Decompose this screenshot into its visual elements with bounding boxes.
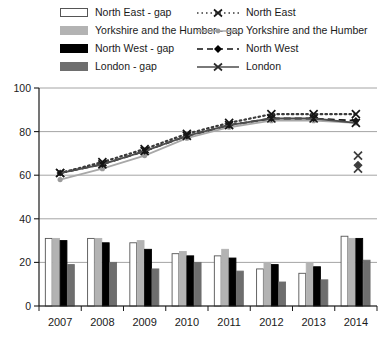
bar <box>214 256 221 306</box>
bar <box>279 282 286 306</box>
x-axis-tick-label: 2009 <box>132 316 156 328</box>
data-point-marker <box>58 177 63 182</box>
y-axis-tick-label: 80 <box>19 126 31 138</box>
bar <box>145 249 152 306</box>
bar <box>348 238 355 306</box>
bar <box>102 243 109 306</box>
data-point-marker <box>354 152 362 160</box>
bar <box>229 258 236 306</box>
bar <box>68 265 75 306</box>
legend-label: North West <box>246 43 298 54</box>
dashed-line-diamond-marker-icon <box>197 43 239 55</box>
x-axis-tick-label: 2012 <box>259 316 283 328</box>
legend-label: London - gap <box>95 61 157 72</box>
x-axis-tick-label: 2008 <box>90 316 114 328</box>
legend-label: Yorkshire and the Humber <box>246 25 368 36</box>
bar <box>88 238 95 306</box>
bar <box>341 236 348 306</box>
chart-plot-area: 0204060801002007200820092010201120122013… <box>0 78 391 356</box>
bar <box>187 256 194 306</box>
bar <box>172 254 179 306</box>
chart-canvas: 0204060801002007200820092010201120122013… <box>0 78 391 356</box>
legend-label: North East <box>246 7 296 18</box>
y-axis-tick-label: 40 <box>19 213 31 225</box>
bar <box>299 273 306 306</box>
legend-item-london: London <box>197 58 368 75</box>
chart-figure: North East - gap Yorkshire and the Humbe… <box>0 0 391 356</box>
bar <box>95 238 102 306</box>
legend-label: London <box>246 61 281 72</box>
bar <box>363 260 370 306</box>
y-axis-tick-label: 100 <box>13 82 31 94</box>
dotted-line-x-marker-icon <box>197 7 239 19</box>
legend-item-north-west: North West <box>197 40 368 57</box>
x-axis-tick-label: 2014 <box>344 316 368 328</box>
legend-item-north-east: North East <box>197 4 368 21</box>
x-axis-tick-label: 2010 <box>175 316 199 328</box>
bar <box>264 262 271 306</box>
bar <box>222 249 229 306</box>
y-axis-tick-label: 0 <box>25 300 31 312</box>
bar <box>110 262 117 306</box>
grey-line-circle-marker-icon <box>197 25 239 37</box>
light-grey-bar-icon <box>60 26 88 35</box>
chart-legend: North East - gap Yorkshire and the Humbe… <box>0 0 391 78</box>
x-axis-tick-label: 2013 <box>301 316 325 328</box>
series-line <box>60 121 356 180</box>
bar <box>45 238 52 306</box>
y-axis-tick-label: 20 <box>19 256 31 268</box>
bar <box>179 252 186 307</box>
black-bar-icon <box>60 44 88 53</box>
bar <box>137 241 144 306</box>
bar <box>237 271 244 306</box>
y-axis-tick-label: 60 <box>19 169 31 181</box>
bar <box>194 262 201 306</box>
dark-grey-bar-icon <box>60 62 88 71</box>
legend-label: North West - gap <box>95 43 174 54</box>
legend-item-yorkshire: Yorkshire and the Humber <box>197 22 368 39</box>
bar <box>306 262 313 306</box>
data-point-marker <box>352 110 360 118</box>
bar <box>321 280 328 306</box>
bar <box>152 269 159 306</box>
solid-line-x-marker-icon <box>197 61 239 73</box>
x-axis-tick-label: 2011 <box>217 316 241 328</box>
bar <box>271 265 278 306</box>
legend-column-lines: North East Yorkshire and the Humber <box>197 4 368 76</box>
bar <box>130 243 137 306</box>
bar <box>356 238 363 306</box>
legend-label: North East - gap <box>95 7 171 18</box>
bar <box>60 241 67 306</box>
bar <box>53 238 60 306</box>
hollow-bar-icon <box>60 8 88 17</box>
bar <box>257 269 264 306</box>
bar <box>314 267 321 306</box>
x-axis-tick-label: 2007 <box>48 316 72 328</box>
